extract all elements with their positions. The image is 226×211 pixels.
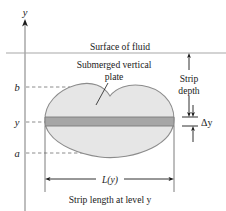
fluid-surface-label: Surface of fluid: [90, 41, 150, 52]
y-axis-label: y: [22, 7, 28, 18]
length-label: L(y): [101, 174, 118, 186]
plate-label-line2: plate: [105, 71, 124, 82]
figure-caption: Strip length at level y: [69, 194, 152, 205]
representative-strip: [45, 117, 174, 126]
strip-depth-label-line1: Strip: [180, 73, 199, 84]
strip-depth-label-line2: depth: [178, 85, 200, 96]
strip-band: [45, 117, 174, 126]
delta-y-label: Δy: [201, 117, 212, 128]
tick-label-b: b: [14, 82, 19, 93]
tick-label-a: a: [14, 148, 19, 159]
plate-label-line1: Submerged vertical: [77, 59, 152, 70]
tick-label-y: y: [14, 117, 20, 128]
submerged-plate-diagram: y Surface of fluid b y a Submerged verti…: [0, 0, 226, 211]
